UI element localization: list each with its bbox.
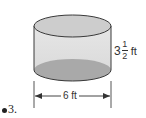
height-label: 3 1 2 ft bbox=[114, 40, 137, 61]
problem-number: 3. bbox=[2, 102, 17, 117]
cylinder-top bbox=[34, 15, 111, 37]
arrow-right-icon bbox=[103, 93, 110, 99]
height-unit: ft bbox=[131, 45, 137, 57]
problem-number-text: 3. bbox=[8, 102, 17, 116]
arrow-left-icon bbox=[35, 93, 42, 99]
height-fraction: 1 2 bbox=[122, 40, 128, 61]
diameter-label: 6 ft bbox=[61, 90, 79, 101]
fraction-denominator: 2 bbox=[122, 52, 127, 61]
height-whole: 3 bbox=[114, 44, 121, 58]
bullet-icon bbox=[2, 108, 7, 113]
fraction-numerator: 1 bbox=[122, 40, 127, 49]
